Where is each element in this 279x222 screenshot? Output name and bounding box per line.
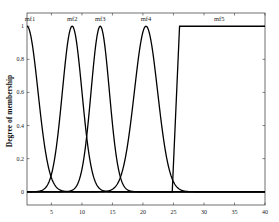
x-tick-label: 10 [79,209,85,215]
label-mf2: mf2 [67,15,77,22]
membership-chart: 51015202530354000.20.40.60.81 mf1mf2mf3m… [0,0,279,222]
y-tick-label: 0 [21,189,24,195]
curve-mf4 [27,26,265,192]
x-tick-label: 40 [262,209,268,215]
curve-mf5 [27,26,265,192]
y-axis-label: Degree of membership [5,75,14,147]
x-tick-label: 5 [50,209,53,215]
label-mf1: mf1 [25,15,35,22]
y-tick-label: 1 [21,23,24,29]
curve-mf3 [27,26,265,192]
x-tick-label: 35 [231,209,237,215]
label-mf5: mf5 [214,15,224,22]
curve-mf1 [27,26,265,192]
curves [27,26,265,192]
x-tick-label: 30 [201,209,207,215]
y-tick-label: 0.6 [17,89,25,95]
plot-frame [27,13,265,205]
y-tick-label: 0.8 [17,56,25,62]
x-tick-label: 15 [109,209,115,215]
y-tick-label: 0.4 [17,123,25,129]
y-tick-label: 0.2 [17,156,25,162]
label-mf3: mf3 [95,15,105,22]
curve-mf2 [27,26,265,192]
x-tick-label: 25 [170,209,176,215]
x-tick-label: 20 [140,209,146,215]
label-mf4: mf4 [141,15,152,22]
mf-labels: mf1mf2mf3mf4mf5 [25,15,225,22]
